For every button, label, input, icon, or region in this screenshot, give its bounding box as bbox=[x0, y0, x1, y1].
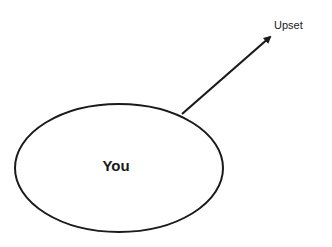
arrow-to-upset bbox=[182, 37, 270, 114]
diagram-canvas bbox=[0, 0, 332, 247]
target-node-label: Upset bbox=[274, 19, 303, 31]
center-node-label: You bbox=[70, 157, 162, 174]
